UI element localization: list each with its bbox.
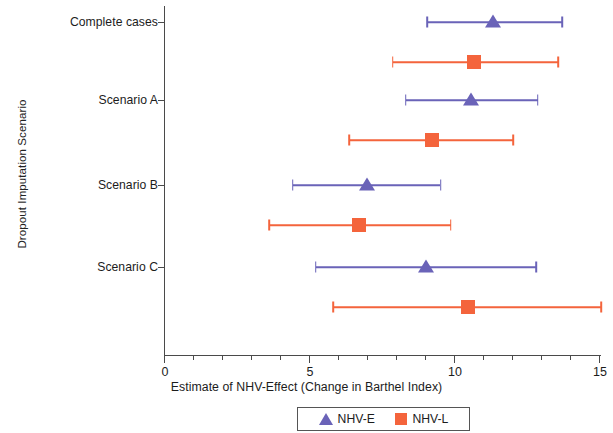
- error-bar-cap: [562, 17, 564, 28]
- error-bar-cap: [269, 220, 271, 231]
- x-axis-title: Estimate of NHV-Effect (Change in Barthe…: [0, 380, 613, 394]
- legend-item-nhv-e: NHV-E: [319, 412, 375, 426]
- x-tick-minor: [425, 355, 426, 360]
- x-tick-minor: [483, 355, 484, 360]
- x-tick-major: [164, 355, 165, 363]
- legend-label-nhv-l: NHV-L: [412, 412, 448, 426]
- triangle-marker-icon: [463, 92, 479, 105]
- x-axis-line: [164, 355, 601, 356]
- error-bar-cap: [315, 262, 317, 273]
- x-tick-label: 10: [448, 365, 462, 379]
- x-tick-minor: [251, 355, 252, 360]
- x-tick-minor: [367, 355, 368, 360]
- x-tick-minor: [222, 355, 223, 360]
- forest-plot-figure: Dropout Imputation Scenario Complete cas…: [0, 0, 613, 433]
- x-tick-major: [454, 355, 455, 363]
- error-bar-cap: [450, 220, 452, 231]
- x-tick-major: [309, 355, 310, 363]
- y-tick-label: Complete cases: [70, 15, 163, 29]
- square-marker-icon: [395, 413, 407, 425]
- x-tick-minor: [396, 355, 397, 360]
- y-axis-title: Dropout Imputation Scenario: [16, 74, 28, 274]
- triangle-marker-icon: [319, 413, 333, 425]
- y-tick-label: Scenario C: [97, 260, 163, 274]
- x-tick-minor: [193, 355, 194, 360]
- error-bar-cap: [537, 95, 539, 106]
- x-tick-label: 0: [162, 365, 169, 379]
- square-marker-icon: [467, 55, 481, 69]
- y-tick-label: Scenario B: [98, 178, 163, 192]
- error-bar-cap: [348, 135, 350, 146]
- error-bar-cap: [535, 262, 537, 273]
- x-tick-minor: [512, 355, 513, 360]
- error-bar-cap: [440, 180, 442, 191]
- y-axis-line: [164, 6, 165, 355]
- square-marker-icon: [352, 218, 366, 232]
- square-marker-icon: [425, 133, 439, 147]
- triangle-marker-icon: [418, 259, 434, 272]
- error-bar-cap: [512, 135, 514, 146]
- error-bar-cap: [601, 302, 603, 313]
- triangle-marker-icon: [485, 14, 501, 27]
- error-bar-cap: [557, 57, 559, 68]
- error-bar-cap: [392, 57, 394, 68]
- error-bar-cap: [427, 17, 429, 28]
- chart-legend: NHV-E NHV-L: [297, 407, 470, 431]
- legend-label-nhv-e: NHV-E: [338, 412, 375, 426]
- x-tick-minor: [570, 355, 571, 360]
- x-tick-minor: [280, 355, 281, 360]
- error-bar-cap: [332, 302, 334, 313]
- x-tick-label: 5: [307, 365, 314, 379]
- square-marker-icon: [461, 300, 475, 314]
- error-bar-cap: [405, 95, 407, 106]
- legend-item-nhv-l: NHV-L: [395, 412, 448, 426]
- x-tick-label: 15: [593, 365, 607, 379]
- x-tick-minor: [338, 355, 339, 360]
- error-bar-cap: [292, 180, 294, 191]
- x-tick-minor: [541, 355, 542, 360]
- x-tick-major: [599, 355, 600, 363]
- triangle-marker-icon: [359, 177, 375, 190]
- y-tick-label: Scenario A: [99, 93, 163, 107]
